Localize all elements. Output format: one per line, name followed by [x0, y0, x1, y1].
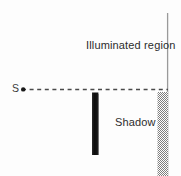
optics-shadow-figure: Illuminated region Shadow S	[0, 0, 181, 176]
source-point-dot	[21, 87, 25, 91]
figure-canvas	[0, 0, 181, 176]
illuminated-region-label: Illuminated region	[86, 39, 176, 52]
source-point-label: S	[12, 82, 19, 95]
obstacle-bar-edge-highlight	[98, 94, 99, 155]
obstacle-bar	[92, 93, 98, 156]
shadow-label: Shadow	[115, 116, 156, 129]
shadow-band	[158, 92, 169, 176]
